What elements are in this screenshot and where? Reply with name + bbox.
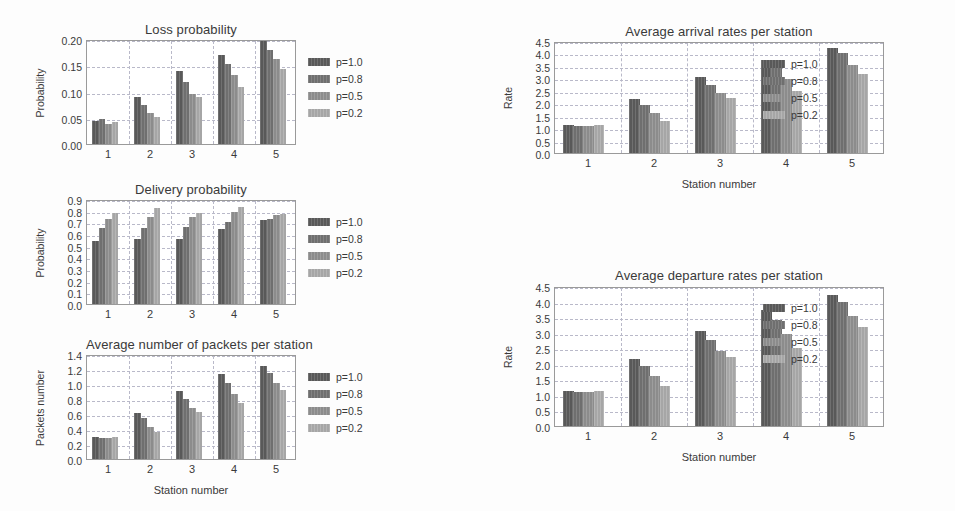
legend-item: p=1.0: [308, 215, 387, 228]
legend-swatch-icon: [308, 407, 330, 415]
legend-item: p=0.2: [308, 266, 387, 279]
y-gridline: [87, 201, 295, 202]
bar-delivery-probability-cat4-p=0.2: [238, 207, 245, 304]
legend-item: p=0.8: [763, 74, 856, 87]
legend-item: p=0.2: [308, 106, 387, 119]
y-axis-tick-label: 3.5: [535, 62, 555, 74]
bar-average-arrival-rates-cat1-p=0.8: [573, 126, 584, 153]
y-axis-tick-label: 3.0: [535, 329, 555, 341]
bar-average-departure-rates-cat2-p=0.2: [660, 386, 671, 426]
bar-average-departure-rates-cat1-p=0.2: [594, 391, 605, 426]
legend-label: p=0.8: [791, 319, 818, 331]
chart-title-delivery-probability: Delivery probability: [86, 182, 296, 197]
y-axis-tick-label: 0.2: [67, 440, 87, 452]
bar-average-departure-rates-cat1-p=1.0: [563, 391, 574, 426]
legend-item: p=1.0: [763, 301, 856, 314]
bar-average-arrival-rates-cat2-p=1.0: [629, 99, 640, 153]
x-axis-label-average-packets-per-station: Station number: [86, 484, 296, 496]
legend-item: p=0.8: [308, 72, 387, 85]
y-axis-tick-label: 0.1: [67, 288, 87, 300]
legend-item: p=1.0: [308, 370, 387, 383]
legend-swatch-icon: [308, 390, 330, 398]
bar-average-departure-rates-cat3-p=0.5: [715, 351, 726, 426]
y-axis-tick-label: 0.4: [67, 253, 87, 265]
bar-average-packets-per-station-cat3-p=0.2: [196, 412, 203, 459]
y-axis-tick-label: 0.0: [67, 455, 87, 467]
legend-swatch-icon: [763, 304, 785, 312]
x-axis-label-average-arrival-rates: Station number: [554, 178, 884, 190]
x-gridline: [753, 288, 754, 426]
y-axis-tick-label: 4.5: [535, 37, 555, 49]
legend-swatch-icon: [308, 373, 330, 381]
bar-average-arrival-rates-cat2-p=0.2: [660, 121, 671, 153]
bar-average-packets-per-station-cat4-p=0.2: [238, 403, 245, 459]
bar-delivery-probability-cat2-p=0.2: [154, 208, 161, 304]
legend-delivery-probability: p=1.0p=0.8p=0.5p=0.2: [305, 212, 391, 286]
y-axis-tick-label: 2.5: [535, 87, 555, 99]
legend-swatch-icon: [308, 92, 330, 100]
x-axis-tick-label: 1: [105, 148, 111, 160]
bar-average-departure-rates-cat2-p=1.0: [629, 359, 640, 426]
legend-item: p=0.5: [308, 249, 387, 262]
x-axis-tick-label: 5: [849, 157, 855, 169]
bar-average-arrival-rates-cat2-p=0.8: [639, 105, 650, 153]
legend-swatch-icon: [763, 77, 785, 85]
x-gridline: [129, 356, 130, 459]
legend-label: p=1.0: [336, 56, 363, 68]
legend-label: p=0.5: [791, 92, 818, 104]
y-axis-tick-label: 0.4: [67, 425, 87, 437]
bar-average-arrival-rates-cat3-p=0.5: [715, 93, 726, 153]
bar-loss-probability-cat2-p=0.2: [154, 117, 161, 144]
x-axis-tick-label: 5: [273, 148, 279, 160]
bar-average-arrival-rates-cat3-p=0.8: [705, 85, 716, 153]
y-axis-tick-label: 0.5: [535, 406, 555, 418]
y-axis-tick-label: 0.6: [67, 230, 87, 242]
x-gridline: [621, 43, 622, 153]
legend-item: p=0.2: [763, 108, 856, 121]
y-axis-tick-label: 0.7: [67, 218, 87, 230]
legend-swatch-icon: [763, 60, 785, 68]
y-gridline: [555, 288, 883, 289]
x-axis-tick-label: 5: [273, 308, 279, 320]
x-axis-tick-label: 2: [651, 430, 657, 442]
x-axis-tick-label: 3: [189, 308, 195, 320]
y-gridline: [555, 43, 883, 44]
chart-title-loss-probability: Loss probability: [86, 22, 296, 37]
bar-average-departure-rates-cat1-p=0.5: [583, 392, 594, 426]
x-gridline: [129, 201, 130, 304]
y-axis-tick-label: 0.9: [67, 195, 87, 207]
bar-average-departure-rates-cat1-p=0.8: [573, 392, 584, 426]
y-axis-label-average-departure-rates: Rate: [502, 287, 514, 427]
legend-label: p=0.2: [791, 109, 818, 121]
legend-label: p=0.8: [336, 233, 363, 245]
y-axis-tick-label: 1.0: [535, 391, 555, 403]
x-gridline: [171, 201, 172, 304]
plot-area-delivery-probability: 0.00.10.20.30.40.50.60.70.80.912345: [86, 200, 296, 305]
bar-loss-probability-cat4-p=0.2: [238, 87, 245, 144]
legend-item: p=0.2: [763, 352, 856, 365]
legend-swatch-icon: [308, 75, 330, 83]
bar-loss-probability-cat5-p=0.2: [280, 69, 287, 144]
legend-label: p=1.0: [791, 302, 818, 314]
legend-label: p=0.5: [336, 90, 363, 102]
x-axis-tick-label: 4: [783, 430, 789, 442]
y-axis-tick-label: 2.0: [535, 360, 555, 372]
x-axis-tick-label: 3: [189, 148, 195, 160]
legend-label: p=1.0: [336, 216, 363, 228]
x-gridline: [255, 356, 256, 459]
legend-item: p=0.5: [763, 335, 856, 348]
chart-title-average-arrival-rates: Average arrival rates per station: [554, 24, 884, 39]
y-axis-tick-label: 2.0: [535, 99, 555, 111]
legend-item: p=0.8: [308, 387, 387, 400]
legend-label: p=0.2: [336, 422, 363, 434]
y-axis-tick-label: 4.0: [535, 49, 555, 61]
y-axis-tick-label: 3.0: [535, 74, 555, 86]
legend-swatch-icon: [763, 94, 785, 102]
bar-average-packets-per-station-cat1-p=0.2: [112, 437, 119, 460]
legend-label: p=1.0: [336, 371, 363, 383]
legend-swatch-icon: [763, 321, 785, 329]
x-gridline: [213, 41, 214, 144]
legend-loss-probability: p=1.0p=0.8p=0.5p=0.2: [305, 52, 391, 126]
y-axis-label-loss-probability: Probability: [34, 40, 46, 145]
legend-label: p=0.5: [791, 336, 818, 348]
